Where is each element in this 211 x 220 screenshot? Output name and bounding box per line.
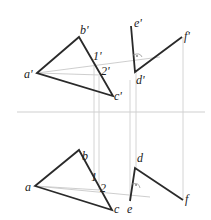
label-1-horizontal: 1: [91, 170, 97, 184]
label-b-horizontal: b: [82, 149, 88, 163]
label-a-horizontal: a: [25, 180, 31, 194]
label-2-horizontal: 2: [100, 181, 106, 195]
projection-lines: [94, 37, 183, 200]
label-f-frontal: f': [184, 29, 190, 43]
label-e-frontal: e': [134, 16, 142, 30]
line-edf-frontal: [131, 26, 182, 72]
right-angle-dot-horizontal: [135, 184, 137, 186]
label-d-horizontal: d: [137, 151, 144, 165]
construction-line-a2-frontal: [37, 73, 100, 75]
label-1-frontal: 1': [93, 49, 102, 63]
horizontal-view: a b c 1 2 d e f: [25, 149, 190, 216]
projection-diagram: a' b' c' 1' 2' e' d' f' a b c 1 2 d e f: [0, 0, 211, 220]
label-d-frontal: d': [136, 73, 145, 87]
frontal-view: a' b' c' 1' 2' e' d' f': [24, 16, 190, 103]
label-e-horizontal: e: [127, 202, 133, 216]
label-c-frontal: c': [114, 89, 122, 103]
triangle-abc-horizontal: [35, 150, 112, 210]
label-c-horizontal: c: [114, 202, 120, 216]
label-a-frontal: a': [24, 67, 33, 81]
right-angle-dot-frontal: [136, 55, 138, 57]
label-b-frontal: b': [80, 23, 89, 37]
label-2-frontal: 2': [101, 64, 110, 78]
label-f-horizontal: f: [185, 192, 190, 206]
